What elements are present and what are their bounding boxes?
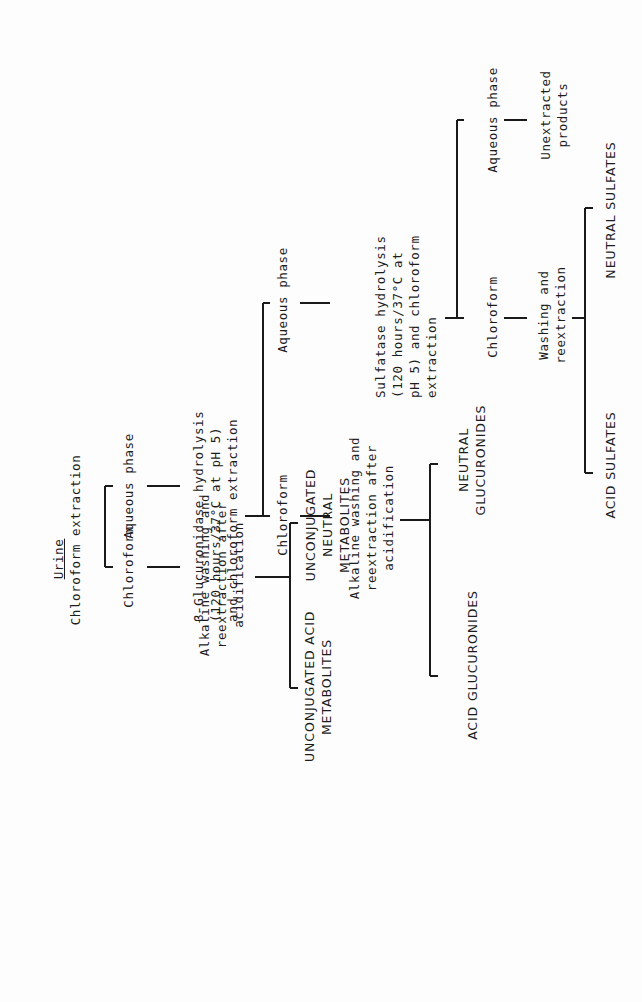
flowchart-diagram: Urine Chloroform extraction Chloroform A… bbox=[0, 0, 642, 1002]
result-unconjugated-acid-metabolites: UNCONJUGATED ACID METABOLITES bbox=[301, 612, 335, 762]
result-neutral-sulfates: NEUTRAL SULFATES bbox=[602, 135, 619, 285]
result-neutral-glucuronides: NEUTRAL GLUCURONIDES bbox=[455, 400, 489, 520]
step-washing-reextraction: Washing and reextraction bbox=[535, 265, 569, 365]
title-urine: Urine bbox=[50, 526, 67, 592]
step-sulfatase-hydrolysis: Sulfatase hydrolysis (120 hours/37°C at … bbox=[372, 188, 440, 398]
result-acid-sulfates: ACID SULFATES bbox=[602, 400, 619, 530]
node-aqueous-phase-1: Aqueous phase bbox=[120, 431, 137, 541]
result-acid-glucuronides: ACID GLUCURONIDES bbox=[464, 585, 481, 745]
node-chloroform-2: Chloroform bbox=[274, 470, 291, 560]
result-unextracted-products: Unextracted products bbox=[537, 65, 571, 165]
step-glucuronidase-hydrolysis: β-Glucuronidase hydrolysis (120 hours/37… bbox=[190, 352, 241, 622]
node-aqueous-phase-3: Aqueous phase bbox=[484, 65, 501, 175]
node-chloroform-3: Chloroform bbox=[484, 272, 501, 362]
step-alkaline-washing-2: Alkaline washing and reextraction after … bbox=[346, 428, 397, 608]
node-aqueous-phase-2: Aqueous phase bbox=[274, 245, 291, 355]
step-chloroform-extraction: Chloroform extraction bbox=[67, 430, 84, 650]
